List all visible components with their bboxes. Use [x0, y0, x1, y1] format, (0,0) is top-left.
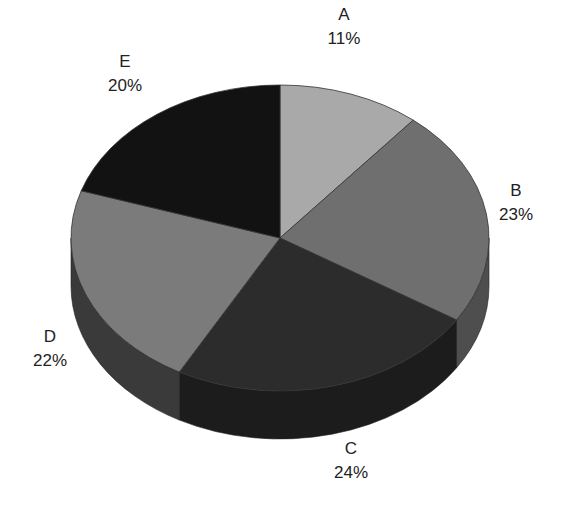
- label-e-name: E: [95, 50, 155, 74]
- label-c-pct: 24%: [321, 461, 381, 485]
- label-b-name: B: [486, 179, 546, 203]
- label-a-pct: 11%: [314, 27, 374, 51]
- pie-slices: [71, 85, 489, 391]
- label-a-name: A: [314, 3, 374, 27]
- label-e: E 20%: [95, 50, 155, 98]
- label-b-pct: 23%: [486, 203, 546, 227]
- label-a: A 11%: [314, 3, 374, 51]
- label-d-name: D: [20, 325, 80, 349]
- label-c: C 24%: [321, 437, 381, 485]
- pie-chart-3d: [0, 0, 564, 509]
- label-d-pct: 22%: [20, 349, 80, 373]
- label-c-name: C: [321, 437, 381, 461]
- label-d: D 22%: [20, 325, 80, 373]
- label-b: B 23%: [486, 179, 546, 227]
- label-e-pct: 20%: [95, 74, 155, 98]
